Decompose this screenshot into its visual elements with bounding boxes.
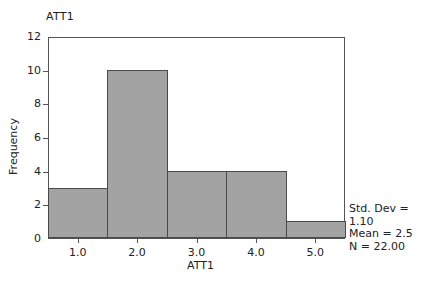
y-tick-mark (43, 205, 48, 206)
x-tick-mark (137, 239, 138, 243)
histogram-bar (286, 221, 346, 238)
y-tick-label: 2 (33, 198, 41, 211)
y-tick-label: 0 (33, 232, 41, 245)
histogram-bar (167, 171, 227, 238)
histogram-bar (48, 188, 108, 239)
x-tick-mark (256, 239, 257, 243)
x-tick-label: 4.0 (247, 246, 265, 259)
stats-box: Std. Dev = 1.10 Mean = 2.5 N = 22.00 (349, 203, 432, 253)
y-axis-label: Frequency (7, 117, 20, 177)
x-tick-mark (315, 239, 316, 243)
mean-stat: Mean = 2.5 (349, 228, 432, 241)
histogram-bar (226, 171, 286, 238)
y-tick-label: 6 (33, 131, 41, 144)
x-tick-label: 2.0 (128, 246, 146, 259)
y-tick-mark (43, 172, 48, 173)
n-stat: N = 22.00 (349, 241, 432, 254)
std-dev-stat: Std. Dev = 1.10 (349, 203, 432, 228)
y-tick-mark (43, 104, 48, 105)
histogram-bar (107, 70, 167, 238)
y-tick-label: 12 (25, 30, 41, 43)
x-tick-label: 1.0 (69, 246, 87, 259)
x-tick-mark (78, 239, 79, 243)
plot-area (48, 37, 345, 239)
y-tick-label: 8 (33, 97, 41, 110)
y-tick-mark (43, 71, 48, 72)
x-axis-label: ATT1 (187, 259, 214, 272)
y-tick-mark (43, 138, 48, 139)
x-tick-mark (197, 239, 198, 243)
y-tick-label: 10 (25, 64, 41, 77)
x-tick-label: 5.0 (307, 246, 325, 259)
x-tick-label: 3.0 (188, 246, 206, 259)
chart-title: ATT1 (46, 10, 74, 23)
y-tick-label: 4 (33, 165, 41, 178)
